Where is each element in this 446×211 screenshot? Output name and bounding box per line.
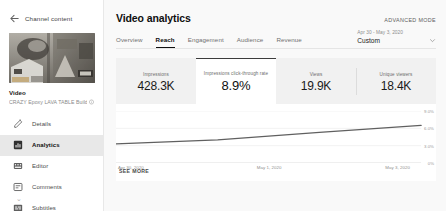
thumbnail-image [9,33,95,83]
subtitles-icon [13,203,23,211]
metric-card-unique-viewers[interactable]: Unique viewers 18.4K [356,58,436,104]
sidebar-item-comments-label: Comments [32,184,62,190]
tabs-and-daterange: Overview Reach Engagement Audience Reven… [116,30,436,49]
comment-icon [13,182,23,192]
tab-reach[interactable]: Reach [156,36,175,48]
pencil-icon [13,119,23,129]
sidebar-item-subtitles-label: Subtitles [32,205,56,211]
video-thumbnail[interactable] [9,33,95,83]
video-analytics-page: Channel content [0,0,446,211]
analytics-tabs: Overview Reach Engagement Audience Reven… [116,36,302,48]
metric-card-impressions-value: 428.3K [138,80,175,92]
metric-card-views-label: Views [310,72,323,77]
advanced-mode-link[interactable]: ADVANCED MODE [384,17,436,23]
analytics-icon [13,140,23,150]
editor-icon [13,161,23,171]
y-axis-tick: 9.0% [424,109,434,114]
date-range-value: Apr 30 - May 3, 2020 [357,30,403,35]
chart-svg [116,111,436,163]
x-axis: Apr 30, 2020 May 1, 2020 May 3, 2020 [116,164,436,175]
y-axis-tick: 3.0% [424,143,434,148]
sidebar-item-editor[interactable]: Editor [0,156,103,177]
metric-card-impressions[interactable]: Impressions 428.3K [116,58,196,104]
sidebar-more-indicator: ⌄ [16,195,22,202]
metric-card-impressions-label: Impressions [143,72,169,77]
date-range-selector[interactable]: Apr 30 - May 3, 2020 Custom [357,30,436,48]
back-to-channel-content[interactable]: Channel content [0,0,103,26]
chart-panel: 9.0% 6.0% 3.0% 0% Apr 30, 2020 May 1, 20… [116,104,436,181]
y-axis-tick: 6.0% [424,126,434,131]
metric-card-views-value: 19.9K [301,80,331,92]
back-label: Channel content [25,15,72,22]
metric-card-views[interactable]: Views 19.9K [276,58,356,104]
x-axis-tick: May 1, 2020 [257,165,282,170]
main-header: Video analytics ADVANCED MODE [116,0,436,24]
tab-overview[interactable]: Overview [116,36,143,48]
tab-engagement[interactable]: Engagement [188,36,224,48]
metric-card-unique-viewers-label: Unique viewers [380,72,413,77]
video-kicker: Video [9,89,94,97]
metric-card-ctr-label: Impressions click-through rate [204,71,268,76]
tab-revenue[interactable]: Revenue [276,36,301,48]
chart-gridlines [116,111,421,163]
see-more-link[interactable]: SEE MORE [119,168,149,174]
date-range-label: Custom [357,37,403,44]
line-chart[interactable]: 9.0% 6.0% 3.0% 0% [116,111,436,163]
main-content: Video analytics ADVANCED MODE Overview R… [104,0,446,211]
info-icon [89,99,94,105]
video-title: CRAZY Epoxy LAVA TABLE Build [9,99,87,106]
sidebar-item-editor-label: Editor [32,163,48,169]
sidebar-item-analytics[interactable]: Analytics [0,135,103,156]
page-title: Video analytics [116,12,191,24]
video-meta: Video CRAZY Epoxy LAVA TABLE Build [0,83,103,106]
sidebar-item-analytics-label: Analytics [32,142,60,148]
metric-card-ctr[interactable]: Impressions click-through rate 8.9% [196,58,276,104]
sidebar: Channel content [0,0,104,211]
x-axis-tick: May 3, 2020 [385,165,410,170]
chevron-down-icon[interactable] [429,37,436,44]
metric-card-ctr-value: 8.9% [222,79,251,92]
metric-cards: Impressions 428.3K Impressions click-thr… [116,58,436,104]
metric-card-unique-viewers-value: 18.4K [381,80,411,92]
tab-audience[interactable]: Audience [237,36,264,48]
sidebar-item-details[interactable]: Details [0,114,103,135]
arrow-left-icon [9,13,20,24]
sidebar-item-details-label: Details [32,121,51,127]
